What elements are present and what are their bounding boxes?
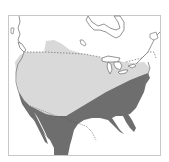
map-svg (0, 0, 169, 162)
range-map (0, 0, 169, 162)
